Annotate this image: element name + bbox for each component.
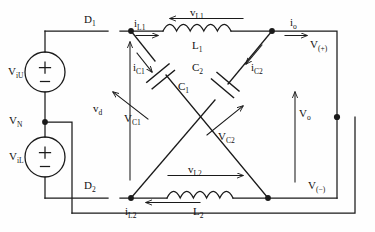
- current-label-ic2: iC2: [251, 62, 263, 76]
- node-label-vn: VN: [9, 115, 22, 129]
- switch-label-d1: D1: [84, 14, 96, 28]
- inductor-l1-coil: [163, 24, 231, 31]
- source-label-vil: ViL: [9, 151, 24, 165]
- terminal-label-vminus: V(−): [308, 180, 325, 194]
- voltage-label-vo: Vo: [299, 108, 311, 122]
- schematic-vector-layer: [0, 0, 375, 232]
- capacitor-c1-plate-b: [152, 71, 174, 89]
- capacitor-c1-plate-a: [147, 64, 169, 82]
- wire-top-to-vplus: [272, 31, 337, 117]
- wire-c2-lower-lead: [131, 100, 215, 198]
- current-label-ic1: iC1: [133, 62, 145, 76]
- current-label-il1: iL1: [134, 18, 145, 32]
- voltage-label-vc1: VC1: [124, 113, 141, 127]
- wire-c2-upper-lead: [228, 31, 272, 84]
- terminal-label-vplus: V(+): [310, 39, 327, 53]
- current-label-io: io: [290, 17, 297, 31]
- current-label-il2: iL2: [125, 206, 136, 220]
- capacitor-label-c2: C2: [192, 62, 203, 76]
- source-label-viu: ViU: [8, 66, 23, 80]
- voltage-label-vl2: vL2: [188, 164, 202, 178]
- source-viu-plus-glyph: [40, 62, 51, 73]
- voltage-label-vc2: VC2: [218, 131, 235, 145]
- inductor-label-l2: L2: [193, 206, 203, 220]
- voltage-label-vd: vd: [93, 103, 102, 117]
- inductor-l2-coil: [167, 191, 233, 198]
- circuit-diagram-canvas: ViU ViL VN D1 D2 L1 L2 C1 C2 iL1 iC1 iC2…: [0, 0, 375, 232]
- capacitor-label-c1: C1: [178, 81, 189, 95]
- voltage-label-vl1: vL1: [190, 7, 204, 21]
- wire-vn-to-return-bus: [45, 122, 72, 213]
- inductor-label-l1: L1: [192, 40, 202, 54]
- node-dot-output-right: [334, 114, 340, 120]
- switch-label-d2: D2: [84, 180, 96, 194]
- source-vil-plus-glyph: [40, 147, 51, 158]
